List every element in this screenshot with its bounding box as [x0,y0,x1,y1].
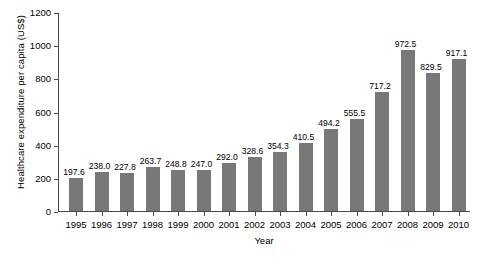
bar [324,129,338,211]
x-axis-title: Year [58,234,470,248]
bar [299,143,313,211]
bar [222,163,236,211]
bar [248,157,262,211]
bar-value-label: 829.5 [411,62,451,73]
bar [197,170,211,211]
y-axis-tick-mark [54,79,58,80]
bar [452,59,466,211]
bar [95,172,109,211]
bar-value-label: 494.2 [309,118,349,129]
y-axis-tick-label: 600 [35,106,51,119]
x-axis-tick-label: 2010 [442,218,476,231]
y-axis-tick-label: 400 [35,139,51,152]
bar-chart: Healthcare expenditure per capita (US$) … [0,0,495,267]
x-axis-tick-mark [178,212,179,216]
bar [375,92,389,211]
x-axis-tick-mark [255,212,256,216]
y-axis-line [58,13,59,212]
x-axis-tick-mark [331,212,332,216]
bar [426,73,440,211]
x-axis-tick-mark [102,212,103,216]
bar-value-label: 917.1 [437,48,477,59]
x-axis-tick-mark [382,212,383,216]
plot-area: 020040060080010001200 197.6238.0227.8263… [58,13,470,212]
y-axis-tick-mark [54,113,58,114]
y-axis-tick-mark [54,179,58,180]
bar [120,173,134,211]
x-axis-tick-mark [306,212,307,216]
y-axis-tick-label: 800 [35,72,51,85]
y-axis-tick-mark [54,212,58,213]
x-axis-tick-mark [76,212,77,216]
x-axis-tick-mark [433,212,434,216]
bar [273,152,287,211]
bar [69,178,83,211]
y-axis-tick-mark [54,13,58,14]
bar-value-label: 555.5 [335,108,375,119]
y-axis-tick-label: 1000 [30,39,51,52]
x-axis-tick-mark [127,212,128,216]
y-axis-tick-label: 1200 [30,6,51,19]
x-axis-tick-mark [204,212,205,216]
x-axis-tick-mark [153,212,154,216]
x-axis-tick-mark [229,212,230,216]
x-axis-tick-mark [357,212,358,216]
bar-value-label: 410.5 [284,132,324,143]
bar-value-label: 972.5 [386,39,426,50]
y-axis-title: Healthcare expenditure per capita (US$) [13,0,29,212]
bar [350,119,364,211]
bar [171,170,185,211]
y-axis-tick-label: 200 [35,172,51,185]
bar-value-label: 717.2 [360,81,400,92]
y-axis-tick-mark [54,146,58,147]
bar [146,167,160,211]
bar [401,50,415,211]
x-axis-tick-mark [280,212,281,216]
y-axis-tick-label: 0 [46,205,51,218]
x-axis-tick-mark [408,212,409,216]
y-axis-tick-mark [54,46,58,47]
x-axis-tick-mark [459,212,460,216]
